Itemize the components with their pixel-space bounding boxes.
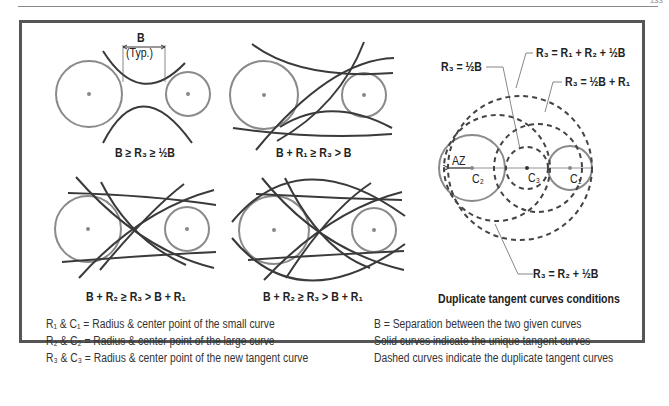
callout-half-b: R₃ = ½B <box>441 60 482 74</box>
az-label: AZ <box>452 154 466 168</box>
case-4-diagram <box>232 178 405 281</box>
c1-label: C₁ <box>570 172 581 186</box>
legend-item: B = Separation between the two given cur… <box>374 316 613 333</box>
legend-right: B = Separation between the two given cur… <box>374 316 613 367</box>
callout-r1-r2-half-b: R₃ = R₁ + R₂ + ½B <box>536 46 625 60</box>
case-2-condition: B + R₁ ≥ R₃ > B <box>276 146 351 160</box>
case-2-diagram <box>230 42 394 150</box>
legend-item: Solid curves indicate the unique tangent… <box>374 333 613 350</box>
case-4-condition: B + R₂ ≥ R₃ > B + R₁ <box>263 290 363 304</box>
duplicate-diagram-title: Duplicate tangent curves conditions <box>438 292 620 306</box>
center-dot <box>186 92 190 96</box>
legend-item: Dashed curves indicate the duplicate tan… <box>374 350 613 367</box>
legend-item: R₃ & C₃ = Radius & center point of the n… <box>46 350 308 367</box>
legend-item: R₁ & C₁ = Radius & center point of the s… <box>46 316 308 333</box>
legend-item: R₂ & C₂ = Radius & center point of the l… <box>46 333 308 350</box>
c2-label: C₂ <box>472 172 484 186</box>
dimension-typ-label: (Typ.) <box>126 46 153 60</box>
case-1-condition: B ≥ R₃ ≥ ½B <box>115 146 175 160</box>
legend-left: R₁ & C₁ = Radius & center point of the s… <box>46 316 308 367</box>
dimension-b-label: B <box>137 31 145 45</box>
callout-half-b-r1: R₃ = ½B + R₁ <box>565 75 630 89</box>
case-3-condition: B + R₂ ≥ R₃ > B + R₁ <box>86 290 186 304</box>
c3-label: C₃ <box>528 171 540 185</box>
callout-r2-half-b: R₃ = R₂ + ½B <box>533 267 598 281</box>
center-dot <box>87 92 91 96</box>
case-3-diagram <box>55 177 216 278</box>
